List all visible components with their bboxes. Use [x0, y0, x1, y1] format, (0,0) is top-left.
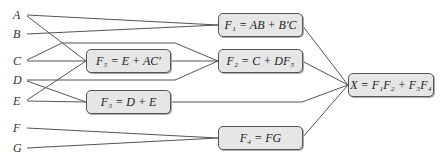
- wire-g-f4: [27, 138, 218, 148]
- input-b: B: [13, 27, 20, 41]
- block-f4: F₄ = FG: [218, 126, 303, 150]
- input-a: A: [13, 8, 20, 22]
- input-g: G: [13, 141, 22, 155]
- wire-a-f1: [27, 15, 218, 25]
- wire-d-f3: [27, 81, 86, 102]
- block-f1: F₁ = AB + B′C: [218, 13, 303, 37]
- wire-f-f4: [27, 128, 218, 138]
- wire-e-f3: [27, 101, 86, 102]
- wire-f2-x: [302, 61, 348, 85]
- input-e: E: [13, 94, 20, 108]
- wire-f3-x: [170, 85, 348, 102]
- input-f: F: [13, 121, 20, 135]
- block-f2: F₂ = C + DF₅: [218, 49, 303, 73]
- block-x: X = F₁F₂ + F₃F₄: [348, 73, 434, 97]
- input-d: D: [13, 73, 22, 87]
- block-f5: F₅ = E + AC′: [86, 49, 171, 73]
- wire-f4-x: [302, 85, 348, 138]
- block-f3: F₃ = D + E: [86, 90, 171, 114]
- wire-f1-x: [302, 25, 348, 85]
- wire-a-f5: [27, 16, 86, 61]
- wire-b-f1: [27, 25, 218, 34]
- input-c: C: [13, 54, 21, 68]
